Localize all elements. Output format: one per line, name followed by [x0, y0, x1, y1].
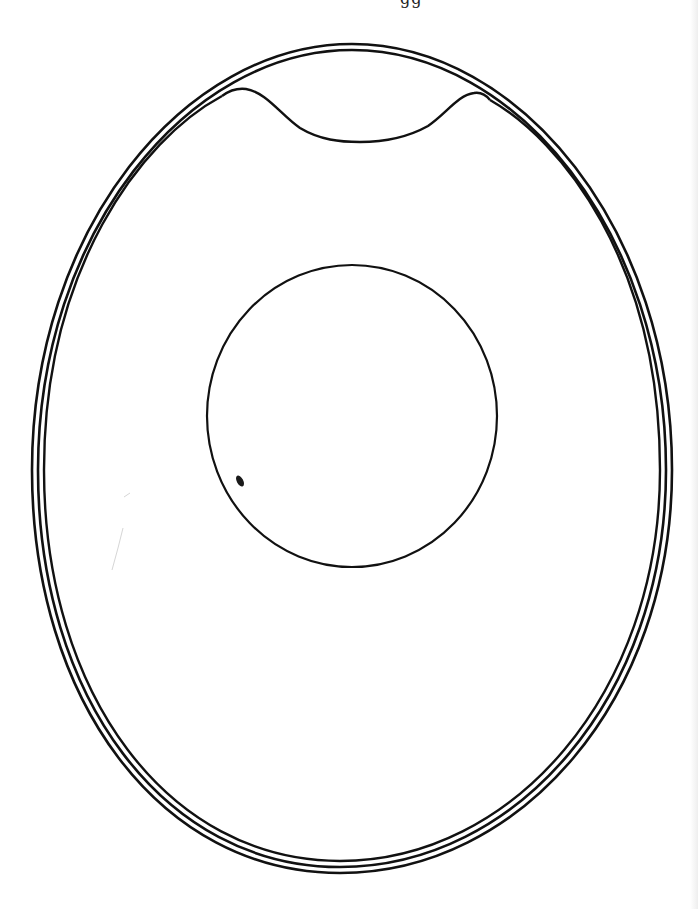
egg-diagram	[0, 0, 698, 909]
scan-artifact	[112, 493, 130, 570]
air-cell-membrane	[222, 89, 490, 142]
germinal-disc-spot	[234, 474, 245, 488]
shell-middle-line	[38, 50, 666, 867]
eggshell	[32, 44, 672, 873]
yolk	[207, 265, 497, 567]
shell-inner-membrane	[44, 96, 660, 861]
